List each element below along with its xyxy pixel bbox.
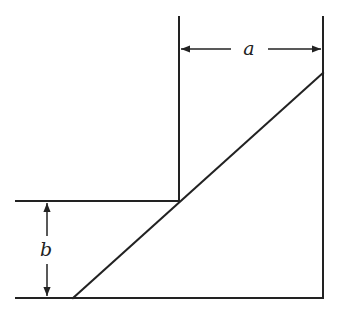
diagonal-line	[73, 73, 323, 298]
label-b: b	[40, 238, 52, 260]
label-a: a	[243, 37, 254, 59]
diagram-canvas: a b	[0, 0, 347, 311]
